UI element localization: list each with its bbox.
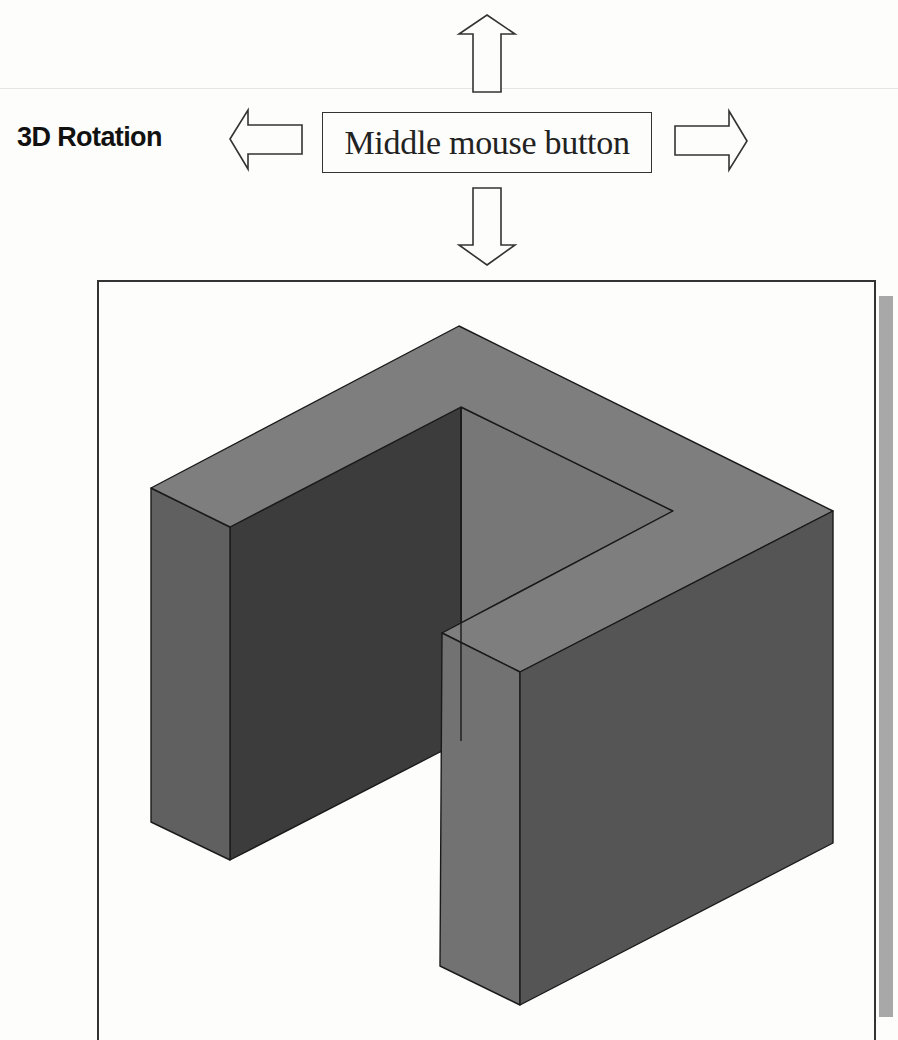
right-block-front-face — [440, 633, 520, 1005]
left-block-outer-face — [151, 488, 230, 860]
